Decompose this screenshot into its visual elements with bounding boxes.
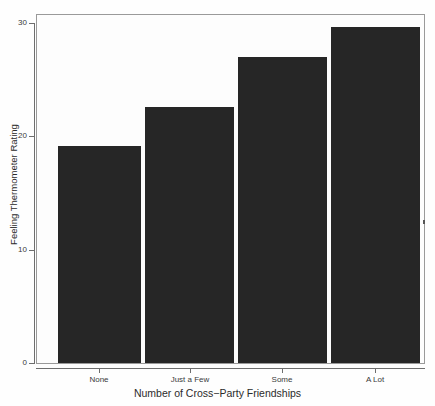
y-tick-10 <box>29 250 34 251</box>
y-axis-line <box>34 23 35 364</box>
y-tick-label-20: 20 <box>18 132 27 140</box>
y-tick-30 <box>29 23 34 24</box>
x-tick-label-some: Some <box>252 375 312 384</box>
y-tick-20 <box>29 136 34 137</box>
bar-just-a-few <box>145 107 234 363</box>
x-tick-a-lot <box>375 368 376 373</box>
bar-a-lot <box>331 27 420 364</box>
bars-layer <box>36 14 425 364</box>
x-tick-none <box>99 368 100 373</box>
x-axis-title: Number of Cross−Party Friendships <box>0 387 435 399</box>
x-tick-label-none: None <box>69 375 129 384</box>
y-tick-label-0: 0 <box>23 359 27 367</box>
bar-some <box>238 57 327 363</box>
bar-none <box>58 146 141 363</box>
bar-chart-figure: 30 20 10 0 Feeling Thermometer Rating No… <box>0 0 435 406</box>
y-axis-title: Feeling Thermometer Rating <box>8 95 19 275</box>
x-tick-label-just-a-few: Just a Few <box>160 375 220 384</box>
y-tick-label-10: 10 <box>18 246 27 254</box>
x-tick-just-a-few <box>190 368 191 373</box>
y-tick-0 <box>29 363 34 364</box>
plot-area <box>36 14 425 364</box>
x-tick-some <box>282 368 283 373</box>
frame-edge-speck <box>423 220 425 224</box>
y-tick-label-30: 30 <box>18 19 27 27</box>
x-tick-label-a-lot: A Lot <box>345 375 405 384</box>
x-axis-line <box>36 368 425 369</box>
